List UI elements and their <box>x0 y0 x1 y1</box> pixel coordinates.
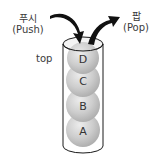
element-label-a: A <box>79 125 87 138</box>
pop-arrow-icon <box>88 16 120 45</box>
element-label-b: B <box>79 100 87 113</box>
element-label-d: D <box>79 53 87 66</box>
element-label-c: C <box>79 75 87 88</box>
stack-diagram: D C B A <box>0 0 159 160</box>
